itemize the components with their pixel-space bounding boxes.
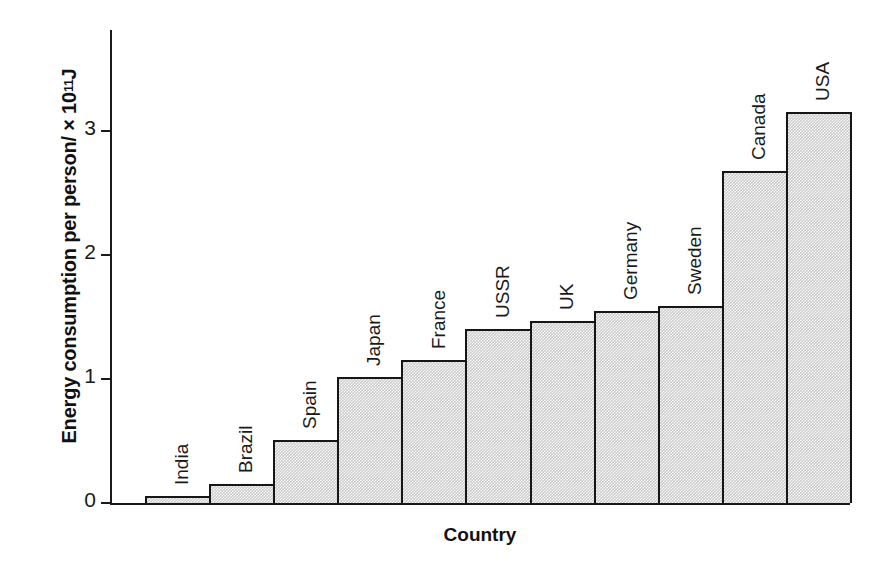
bar-usa[interactable] xyxy=(786,112,852,503)
bar-germany[interactable] xyxy=(594,311,660,503)
bars-container: IndiaBrazilSpainJapanFranceUSSRUKGermany… xyxy=(110,30,850,503)
bar-label-canada: Canada xyxy=(749,93,768,167)
bar-label-spain: Spain xyxy=(300,380,319,436)
bar-label-france: France xyxy=(429,290,448,356)
bar-uk[interactable] xyxy=(530,321,596,503)
bar-label-brazil: Brazil xyxy=(236,426,255,481)
bar-label-sweden: Sweden xyxy=(685,226,704,302)
y-tick-label-2: 2 xyxy=(66,240,96,264)
bar-label-uk: UK xyxy=(557,283,576,316)
bar-india[interactable] xyxy=(145,496,211,503)
y-tick-label-0: 0 xyxy=(66,488,96,512)
bar-france[interactable] xyxy=(401,360,467,503)
y-tick-label-3: 3 xyxy=(66,116,96,140)
bar-chart-figure: Energy consumption per person/ × 1011 J … xyxy=(0,0,883,575)
bar-ussr[interactable] xyxy=(465,329,531,503)
bar-japan[interactable] xyxy=(337,377,403,503)
bar-label-ussr: USSR xyxy=(493,266,512,326)
plot-area: IndiaBrazilSpainJapanFranceUSSRUKGermany… xyxy=(110,30,850,505)
bar-spain[interactable] xyxy=(273,440,339,503)
y-axis-title-prefix: Energy consumption per person/ × 10 xyxy=(58,92,81,443)
y-axis-title-suffix: J xyxy=(58,68,81,79)
y-tick-1 xyxy=(101,378,111,380)
bar-label-india: India xyxy=(172,443,191,491)
y-tick-0 xyxy=(101,502,111,504)
x-axis-title: Country xyxy=(110,524,850,546)
x-axis-line xyxy=(110,503,850,505)
y-tick-2 xyxy=(101,254,111,256)
bar-brazil[interactable] xyxy=(209,484,275,503)
bar-sweden[interactable] xyxy=(658,306,724,503)
bar-label-germany: Germany xyxy=(621,222,640,307)
y-tick-label-1: 1 xyxy=(66,364,96,388)
y-tick-3 xyxy=(101,130,111,132)
bar-label-usa: USA xyxy=(813,62,832,108)
bar-canada[interactable] xyxy=(722,171,788,503)
bar-label-japan: Japan xyxy=(364,314,383,373)
